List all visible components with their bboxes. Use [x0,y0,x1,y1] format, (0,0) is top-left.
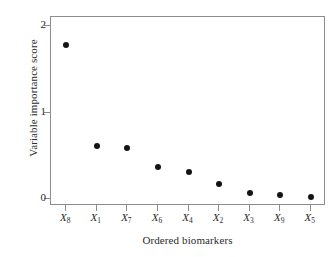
data-point [63,42,69,48]
data-point [155,164,161,170]
data-point [216,181,222,187]
x-axis-tick-label: X5 [290,212,330,223]
data-point [124,145,130,151]
data-point [247,190,253,196]
y-axis-tick-label: 0 [26,192,46,203]
plot-frame [50,16,325,205]
data-point [277,192,283,198]
y-axis-tick-label: 2 [26,19,46,30]
x-axis-title: Ordered biomarkers [50,234,325,246]
data-point [94,143,100,149]
variable-importance-scatter-chart: Variable importance score Ordered biomar… [0,0,336,257]
data-point [308,194,314,200]
y-axis-title: Variable importance score [27,3,39,193]
y-axis-tick-label: 1 [26,106,46,117]
data-point [186,169,192,175]
plot-area [51,17,324,204]
